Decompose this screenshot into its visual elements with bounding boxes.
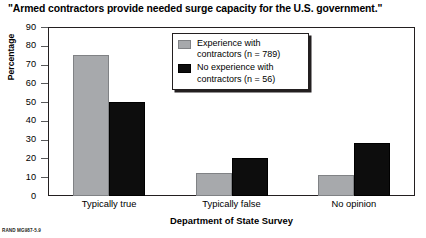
y-axis-tick-label: 90 bbox=[26, 21, 36, 34]
y-axis-tick-label: 20 bbox=[26, 152, 36, 165]
y-axis-tick-mark bbox=[41, 65, 48, 66]
bar bbox=[196, 173, 232, 196]
bar bbox=[318, 175, 354, 196]
y-axis-tick-mark bbox=[41, 177, 48, 178]
chart-legend: Experience with contractors (n = 789) No… bbox=[172, 33, 309, 90]
x-axis-tick-labels: Typically trueTypically falseNo opinion bbox=[48, 198, 415, 214]
legend-label: Experience with contractors (n = 789) bbox=[197, 38, 280, 60]
y-axis-tick-mark bbox=[41, 102, 48, 103]
bar bbox=[73, 55, 109, 196]
bar bbox=[232, 158, 268, 196]
y-axis-tick-mark bbox=[41, 196, 48, 197]
x-axis-tick-label: No opinion bbox=[293, 198, 415, 209]
y-axis-tick-label: 80 bbox=[26, 39, 36, 52]
x-axis-tick-label: Typically false bbox=[170, 198, 292, 209]
y-axis-tick-mark bbox=[41, 27, 48, 28]
y-axis-tick-label: 40 bbox=[26, 114, 36, 127]
y-axis-tick-mark bbox=[41, 83, 48, 84]
y-axis-tick-label: 30 bbox=[26, 133, 36, 146]
legend-swatch-icon bbox=[178, 40, 191, 49]
y-axis-tick-label: 0 bbox=[31, 190, 36, 203]
legend-item: Experience with contractors (n = 789) bbox=[178, 38, 303, 60]
bar bbox=[354, 143, 390, 196]
y-axis-tick-mark bbox=[41, 46, 48, 47]
x-axis-tick-label: Typically true bbox=[48, 198, 170, 209]
y-axis-ticks: 9080706050403020100 bbox=[0, 27, 48, 196]
y-axis-tick-mark bbox=[41, 158, 48, 159]
y-axis-tick-mark bbox=[41, 140, 48, 141]
legend-label: No experience with contractors (n = 56) bbox=[197, 62, 275, 84]
legend-item: No experience with contractors (n = 56) bbox=[178, 62, 303, 84]
bar bbox=[109, 102, 145, 196]
y-axis-tick-label: 60 bbox=[26, 77, 36, 90]
y-axis-tick-label: 10 bbox=[26, 171, 36, 184]
legend-swatch-icon bbox=[178, 64, 191, 73]
x-axis-title: Department of State Survey bbox=[48, 215, 415, 226]
y-axis-tick-mark bbox=[41, 121, 48, 122]
y-axis-tick-label: 70 bbox=[26, 58, 36, 71]
y-axis-tick-label: 50 bbox=[26, 96, 36, 109]
chart-title: "Armed contractors provide needed surge … bbox=[8, 2, 420, 15]
chart-figure: "Armed contractors provide needed surge … bbox=[0, 0, 426, 238]
figure-credit: RAND MG987-5.9 bbox=[2, 228, 41, 233]
